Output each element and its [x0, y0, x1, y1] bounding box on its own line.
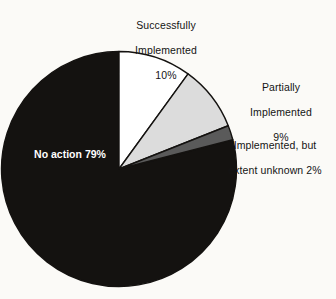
slice-label-successfully-implemented: Successfully Implemented 10%	[108, 6, 224, 94]
slice-label-line: Implemented	[108, 44, 224, 57]
slice-label-value: extent unknown 2%	[214, 164, 336, 177]
slice-label-line: Implemented	[226, 106, 336, 119]
slice-label-no-action: No action 79%	[22, 148, 118, 161]
slice-label-value: 10%	[108, 69, 224, 82]
slice-label-value: 79%	[85, 148, 106, 160]
slice-label-line: No action	[34, 148, 82, 160]
slice-label-line: Partially	[226, 81, 336, 94]
slice-label-line: Successfully	[108, 19, 224, 32]
slice-label-line: Implemented, but	[214, 139, 336, 152]
pie-chart: Successfully Implemented 10% Partially I…	[0, 0, 336, 299]
slice-label-implemented-extent-unknown: Implemented, but extent unknown 2%	[214, 126, 336, 189]
